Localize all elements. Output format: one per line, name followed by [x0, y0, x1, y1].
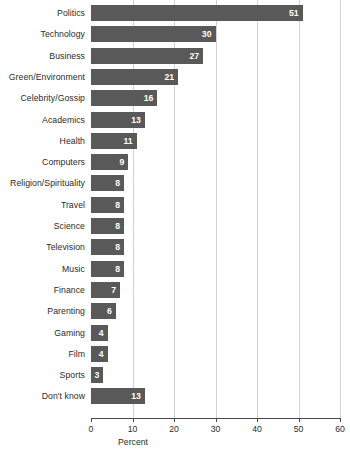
bar-value-label: 4 [91, 325, 108, 341]
bar-row: Health11 [0, 133, 350, 149]
category-label: Finance [0, 282, 85, 298]
bar-row: Computers9 [0, 154, 350, 170]
bar-value-label: 8 [91, 175, 124, 191]
bar-row: Technology30 [0, 26, 350, 42]
category-label: Sports [0, 367, 85, 383]
x-tick-mark [91, 418, 92, 422]
bar-value-label: 8 [91, 239, 124, 255]
bar-value-label: 8 [91, 261, 124, 277]
category-label: Politics [0, 5, 85, 21]
x-tick-mark [133, 418, 134, 422]
bar-row: Don't know13 [0, 388, 350, 404]
x-tick-label: 20 [159, 424, 189, 434]
bar-value-label: 13 [91, 112, 145, 128]
x-tick-label: 60 [325, 424, 350, 434]
bar-row: Green/Environment21 [0, 69, 350, 85]
x-axis-title-label: Percent [118, 437, 148, 447]
bar-value-label: 9 [91, 154, 128, 170]
category-label: Science [0, 218, 85, 234]
bar-row: Finance7 [0, 282, 350, 298]
category-label: Travel [0, 197, 85, 213]
category-label: Health [0, 133, 85, 149]
category-label: Religion/Spirituality [0, 175, 85, 191]
bar-row: Politics51 [0, 5, 350, 21]
x-tick-label: 50 [284, 424, 314, 434]
bar-row: Television8 [0, 239, 350, 255]
x-tick-mark [174, 418, 175, 422]
bar-row: Travel8 [0, 197, 350, 213]
category-label: Technology [0, 26, 85, 42]
bar-value-label: 16 [91, 90, 157, 106]
bar-row: Music8 [0, 261, 350, 277]
bar-value-label: 11 [91, 133, 137, 149]
bar-value-label: 51 [91, 5, 303, 21]
category-label: Computers [0, 154, 85, 170]
x-tick-mark [216, 418, 217, 422]
bar-row: Celebrity/Gossip16 [0, 90, 350, 106]
bar-value-label: 3 [91, 367, 103, 383]
bar-value-label: 7 [91, 282, 120, 298]
category-label: Academics [0, 112, 85, 128]
category-label: Film [0, 346, 85, 362]
category-label: Green/Environment [0, 69, 85, 85]
x-tick-label: 30 [201, 424, 231, 434]
x-tick-label: 40 [242, 424, 272, 434]
category-label: Don't know [0, 388, 85, 404]
bar-value-label: 8 [91, 197, 124, 213]
bar-row: Sports3 [0, 367, 350, 383]
category-label: Celebrity/Gossip [0, 90, 85, 106]
bar-row: Academics13 [0, 112, 350, 128]
bar-row: Business27 [0, 48, 350, 64]
category-label: Television [0, 239, 85, 255]
bar-row: Film4 [0, 346, 350, 362]
bar-row: Parenting6 [0, 303, 350, 319]
bar-value-label: 27 [91, 48, 203, 64]
bar-row: Religion/Spirituality8 [0, 175, 350, 191]
bar-value-label: 13 [91, 388, 145, 404]
category-label: Music [0, 261, 85, 277]
x-tick-label: 10 [118, 424, 148, 434]
bar-chart: Percent Politics51Technology30Business27… [0, 0, 350, 453]
x-tick-mark [299, 418, 300, 422]
x-tick-label: 0 [76, 424, 106, 434]
category-label: Gaming [0, 325, 85, 341]
category-label: Parenting [0, 303, 85, 319]
bar-value-label: 21 [91, 69, 178, 85]
bar-value-label: 4 [91, 346, 108, 362]
bar-value-label: 8 [91, 218, 124, 234]
x-axis-title: Percent [0, 437, 350, 447]
bar-row: Science8 [0, 218, 350, 234]
bar-value-label: 6 [91, 303, 116, 319]
bar-row: Gaming4 [0, 325, 350, 341]
category-label: Business [0, 48, 85, 64]
bar-value-label: 30 [91, 26, 216, 42]
x-tick-mark [257, 418, 258, 422]
x-tick-mark [340, 418, 341, 422]
